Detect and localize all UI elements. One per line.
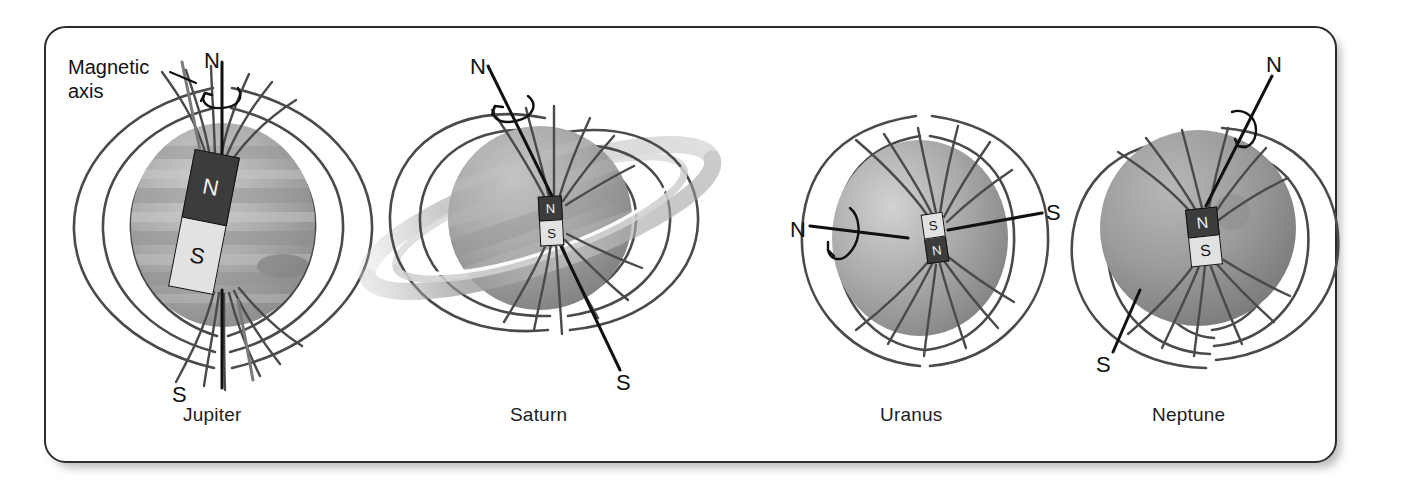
caption-uranus: Uranus [880,404,942,426]
neptune-north-label: N [1266,52,1282,78]
saturn-magnet-north-pole: N [538,195,563,221]
caption-jupiter: Jupiter [183,404,241,426]
caption-saturn: Saturn [510,404,567,426]
saturn-south-label: S [616,370,631,396]
uranus-south-label: S [1046,200,1061,226]
magnetic-axis-label: Magnetic axis [68,56,149,103]
saturn-magnet: N S [538,195,565,246]
jupiter-north-label: N [204,48,220,74]
magnetic-axis-label-line2: axis [68,80,149,104]
neptune-south-label: S [1096,352,1111,378]
saturn-north-label: N [470,54,486,80]
uranus-magnet-south-pole: S [921,212,946,240]
neptune-magnet-south-pole: S [1188,235,1223,267]
figure-frame [44,26,1337,463]
figure-canvas: N S N S S N N S Magnetic axis N S N S N … [0,0,1407,483]
uranus-magnet-north-pole: N [924,236,949,264]
uranus-north-label: N [790,217,806,243]
magnetic-axis-label-line1: Magnetic [68,56,149,80]
saturn-magnet-south-pole: S [539,220,564,246]
neptune-magnet: N S [1185,206,1223,267]
neptune-magnet-north-pole: N [1185,206,1220,238]
caption-neptune: Neptune [1152,404,1225,426]
